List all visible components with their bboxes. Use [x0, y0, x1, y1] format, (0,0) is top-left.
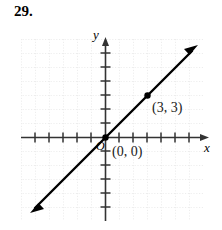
coordinate-graph: y x O (0, 0) (3, 3) — [0, 0, 222, 230]
graph-svg: y x O (0, 0) (3, 3) — [0, 0, 222, 230]
point-label-3-3: (3, 3) — [152, 100, 183, 116]
origin-label: O — [96, 139, 105, 153]
y-axis-label: y — [91, 27, 99, 42]
point-label-origin: (0, 0) — [112, 144, 143, 160]
x-axis-label: x — [203, 140, 210, 155]
point-marker-3-3 — [144, 92, 150, 98]
figure-page: 29. — [0, 0, 222, 230]
